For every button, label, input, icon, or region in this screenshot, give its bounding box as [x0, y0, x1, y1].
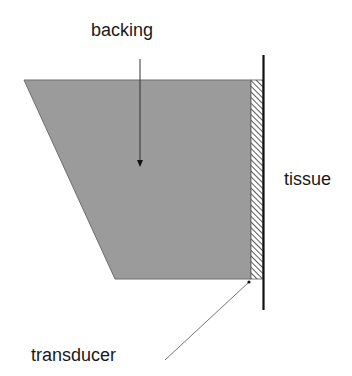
transducer-element	[251, 80, 263, 279]
backing-label: backing	[91, 21, 153, 39]
transducer-label: transducer	[31, 346, 116, 364]
transducer-leader-dot-icon	[247, 280, 250, 283]
transducer-leader-line	[165, 282, 249, 360]
backing-block	[24, 80, 251, 279]
tissue-label: tissue	[284, 170, 331, 188]
